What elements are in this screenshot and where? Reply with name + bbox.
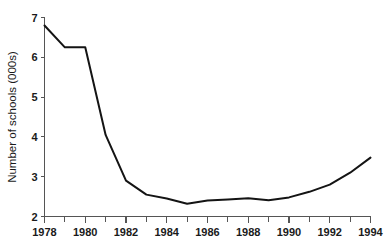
x-tick-label: 1978 bbox=[32, 226, 56, 238]
x-tick-label: 1982 bbox=[114, 226, 138, 238]
y-tick-label: 3 bbox=[31, 171, 37, 183]
y-axis: 234567 bbox=[31, 12, 44, 223]
x-tick-label: 1994 bbox=[358, 226, 383, 238]
chart-plot-area: 234567 197819801982198419861988199019921… bbox=[0, 0, 385, 249]
x-axis: 197819801982198419861988199019921994 bbox=[32, 217, 383, 238]
y-tick-label: 6 bbox=[31, 51, 37, 63]
x-tick-label: 1988 bbox=[236, 226, 260, 238]
y-axis-ticks bbox=[41, 18, 45, 217]
x-axis-ticks bbox=[45, 217, 371, 223]
data-line-schools bbox=[45, 25, 371, 203]
x-tick-label: 1986 bbox=[195, 226, 219, 238]
x-axis-tick-labels: 197819801982198419861988199019921994 bbox=[32, 226, 383, 238]
x-tick-label: 1990 bbox=[277, 226, 301, 238]
x-tick-label: 1992 bbox=[318, 226, 342, 238]
x-tick-label: 1984 bbox=[155, 226, 180, 238]
y-tick-label: 4 bbox=[31, 131, 38, 143]
data-series-group bbox=[45, 25, 371, 203]
y-axis-title: Number of schools (000s) bbox=[6, 51, 18, 183]
line-chart: 234567 197819801982198419861988199019921… bbox=[0, 0, 385, 249]
y-tick-label: 2 bbox=[31, 211, 37, 223]
y-tick-label: 5 bbox=[31, 91, 37, 103]
x-tick-label: 1980 bbox=[73, 226, 97, 238]
y-axis-tick-labels: 234567 bbox=[31, 12, 38, 223]
y-tick-label: 7 bbox=[31, 12, 37, 24]
